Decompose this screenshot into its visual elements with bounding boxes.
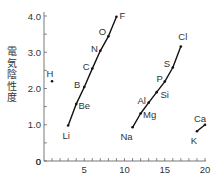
point-label-B: B: [74, 79, 80, 90]
data-point-Al: [147, 101, 150, 104]
series-line: [133, 46, 181, 127]
data-point-Si: [155, 91, 158, 94]
point-label-O: O: [99, 26, 106, 37]
point-label-N: N: [91, 43, 98, 54]
data-point-K: [196, 130, 199, 133]
point-label-C: C: [83, 61, 90, 72]
x-tick-label: 15: [159, 164, 170, 175]
y-axis-label: 電気陰性度: [6, 46, 18, 104]
data-point-S: [172, 66, 175, 69]
y-tick-label: 2.0: [28, 83, 41, 94]
x-tick-label: 20: [200, 164, 211, 175]
data-point-Be: [75, 103, 78, 106]
series-line: [197, 125, 205, 132]
series-line: [68, 17, 116, 126]
data-point-Ca: [204, 123, 207, 126]
point-label-Be: Be: [78, 100, 90, 111]
point-label-Al: Al: [137, 95, 145, 106]
data-point-Mg: [139, 112, 142, 115]
x-tick-label: 0: [36, 156, 41, 167]
data-point-B: [83, 86, 86, 89]
x-tick-label: 5: [82, 164, 87, 175]
y-tick-label: 3.0: [28, 47, 41, 58]
point-label-Na: Na: [120, 131, 133, 142]
data-point-H: [51, 80, 54, 83]
point-label-Si: Si: [160, 89, 168, 100]
data-point-N: [99, 50, 102, 53]
x-tick-label: 10: [119, 164, 130, 175]
point-label-H: H: [47, 68, 54, 79]
point-label-Ca: Ca: [194, 113, 207, 124]
point-label-Cl: Cl: [178, 31, 187, 42]
y-tick-label: 1.0: [28, 119, 41, 130]
electronegativity-chart: 01.02.03.04.005101520 HLiBeBCNOFNaMgAlSi…: [0, 0, 220, 182]
data-point-Li: [67, 124, 70, 127]
point-label-S: S: [164, 58, 170, 69]
data-point-F: [115, 15, 118, 18]
point-label-Mg: Mg: [143, 109, 156, 120]
point-label-F: F: [120, 10, 126, 21]
point-label-K: K: [191, 135, 198, 146]
point-label-P: P: [157, 73, 163, 84]
y-tick-label: 4.0: [28, 11, 41, 22]
data-point-Na: [131, 126, 134, 129]
data-point-P: [163, 80, 166, 83]
point-labels: HLiBeBCNOFNaMgAlSiPSClKCa: [47, 10, 207, 147]
data-point-C: [91, 67, 94, 70]
point-label-Li: Li: [62, 130, 69, 141]
data-point-Cl: [180, 45, 183, 48]
data-point-O: [107, 35, 110, 38]
